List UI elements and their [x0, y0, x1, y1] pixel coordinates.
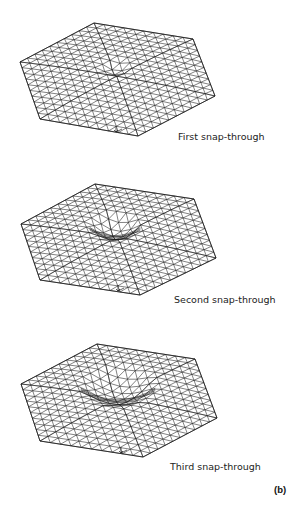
panel-3-mesh	[21, 344, 217, 457]
panel-1-mesh	[20, 23, 215, 136]
figure-label: (b)	[274, 484, 286, 495]
mesh-canvas	[0, 0, 304, 510]
triangular-mesh-lines	[20, 23, 215, 136]
triangular-mesh-lines	[21, 344, 217, 457]
panel-2-caption: Second snap-through	[174, 294, 276, 305]
triangular-mesh-lines	[21, 184, 216, 295]
panel-1-caption: First snap-through	[178, 131, 265, 142]
panel-3-caption: Third snap-through	[170, 461, 261, 472]
panel-2-mesh	[21, 184, 216, 295]
